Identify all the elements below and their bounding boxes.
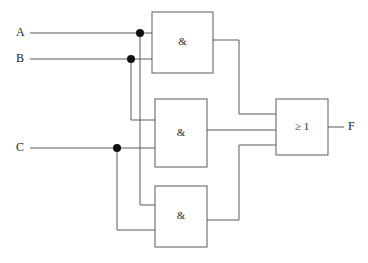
wire-and3-output-to-or bbox=[207, 145, 276, 220]
logic-circuit-diagram: & & & ≥ 1 A B C F bbox=[0, 0, 368, 263]
junction-dot-b bbox=[127, 55, 135, 63]
circuit-canvas: & & & ≥ 1 A B C F bbox=[0, 0, 368, 263]
junction-dot-a bbox=[136, 29, 144, 37]
junction-dot-c bbox=[113, 144, 121, 152]
and-gate-2-label: & bbox=[177, 126, 186, 138]
wire-and1-output-to-or bbox=[213, 40, 276, 114]
and-gate-1[interactable]: & bbox=[152, 12, 213, 73]
input-label-c: C bbox=[16, 140, 24, 154]
and-gate-2[interactable]: & bbox=[155, 99, 207, 167]
and-gate-3[interactable]: & bbox=[155, 186, 207, 247]
output-label-f: F bbox=[348, 119, 355, 133]
wire-c-branch-to-and3 bbox=[117, 148, 155, 230]
input-label-a: A bbox=[16, 25, 25, 39]
and-gate-1-label: & bbox=[178, 35, 187, 47]
and-gate-3-label: & bbox=[177, 209, 186, 221]
or-gate-label: ≥ 1 bbox=[295, 120, 309, 132]
wire-b-branch-to-and2 bbox=[131, 59, 155, 120]
junctions-layer bbox=[113, 29, 144, 152]
or-gate[interactable]: ≥ 1 bbox=[276, 99, 328, 155]
input-label-b: B bbox=[16, 51, 24, 65]
